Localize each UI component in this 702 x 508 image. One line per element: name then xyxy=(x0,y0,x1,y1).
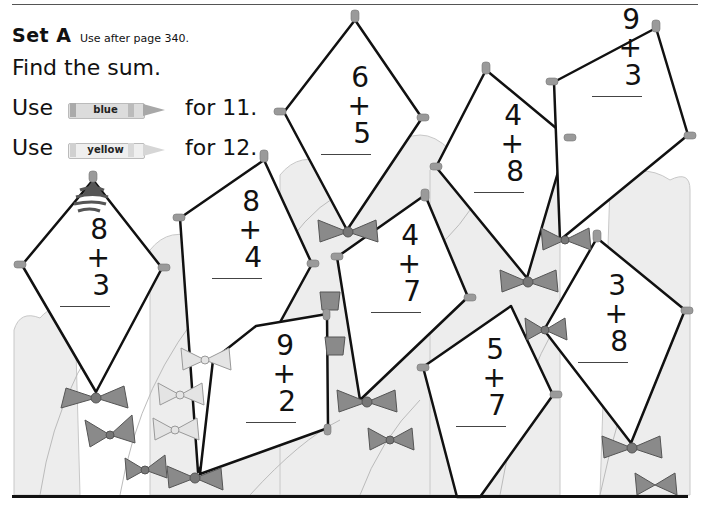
set-header: Set A Use after page 340. xyxy=(12,24,189,46)
kite-problem-6[interactable]: 4 + 8 xyxy=(474,102,524,193)
addend-bottom: + 4 xyxy=(212,216,262,272)
color-key-suffix-1: for 11. xyxy=(185,95,257,120)
color-key-suffix-2: for 12. xyxy=(185,135,257,160)
kite-problem-7[interactable]: 9 + 3 xyxy=(592,6,642,97)
addend-top: 9 xyxy=(246,332,296,360)
sum-line xyxy=(371,312,421,313)
addend-top: 3 xyxy=(578,272,628,300)
kite-problem-2[interactable]: 8 + 4 xyxy=(212,188,262,279)
sum-line xyxy=(212,278,262,279)
kite-problem-3[interactable]: 6 + 5 xyxy=(321,64,371,155)
addend-top: 9 xyxy=(592,6,642,34)
sum-line xyxy=(456,426,506,427)
kite-problem-5[interactable]: 4 + 7 xyxy=(371,222,421,313)
addend-bottom: + 3 xyxy=(592,34,642,90)
color-key-prefix-2: Use xyxy=(12,135,53,160)
addend-bottom: + 7 xyxy=(371,250,421,306)
sum-line xyxy=(474,192,524,193)
set-subtitle: Use after page 340. xyxy=(80,32,189,45)
set-title: Set A xyxy=(12,24,71,46)
addend-top: 8 xyxy=(60,216,110,244)
addend-bottom: + 3 xyxy=(60,244,110,300)
sum-line xyxy=(578,362,628,363)
instruction: Find the sum. xyxy=(12,55,161,80)
addend-bottom: + 8 xyxy=(474,130,524,186)
addend-top: 5 xyxy=(456,336,506,364)
kite-problem-8[interactable]: 5 + 7 xyxy=(456,336,506,427)
addend-top: 4 xyxy=(474,102,524,130)
crayon-label-blue: blue xyxy=(68,104,143,115)
addend-top: 8 xyxy=(212,188,262,216)
kite-problem-9[interactable]: 3 + 8 xyxy=(578,272,628,363)
sum-line xyxy=(321,154,371,155)
color-key-prefix-1: Use xyxy=(12,95,53,120)
addend-bottom: + 5 xyxy=(321,92,371,148)
sum-line xyxy=(60,306,110,307)
addend-top: 4 xyxy=(371,222,421,250)
crayon-label-yellow: yellow xyxy=(68,144,143,155)
sum-line xyxy=(246,422,296,423)
kite-problem-4[interactable]: 9 + 2 xyxy=(246,332,296,423)
bottom-rule xyxy=(12,495,688,498)
addend-top: 6 xyxy=(321,64,371,92)
addend-bottom: + 8 xyxy=(578,300,628,356)
kite-problem-1[interactable]: 8 + 3 xyxy=(60,216,110,307)
addend-bottom: + 2 xyxy=(246,360,296,416)
sum-line xyxy=(592,96,642,97)
addend-bottom: + 7 xyxy=(456,364,506,420)
